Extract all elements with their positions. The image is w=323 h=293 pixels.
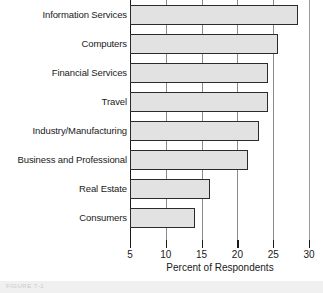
bar [130,34,278,54]
bar [130,5,298,25]
bar [130,208,195,228]
plot-area: Information ServicesComputersFinancial S… [0,0,323,240]
x-tick [202,240,203,248]
category-label: Industry/Manufacturing [0,126,127,136]
bar [130,179,210,199]
x-tick-label: 25 [258,249,288,260]
x-tick [273,240,274,248]
x-tick [130,240,131,248]
x-tick-label: 20 [222,249,252,260]
x-tick-label: 5 [115,249,145,260]
x-tick-label: 30 [294,249,323,260]
bar [130,150,248,170]
x-tick [166,240,167,248]
bar [130,63,268,83]
category-label: Computers [0,39,127,49]
category-label: Consumers [0,213,127,223]
x-axis-title: Percent of Respondents [130,262,310,273]
category-label: Travel [0,97,127,107]
x-tick [237,240,238,248]
x-tick [309,240,310,248]
figure-caption: FIGURE 7-1 [6,283,44,289]
category-label: Financial Services [0,68,127,78]
category-label: Business and Professional [0,155,127,165]
figure-container: Information ServicesComputersFinancial S… [0,0,323,293]
category-label: Information Services [0,10,127,20]
caption-strip [0,281,323,293]
category-label: Real Estate [0,184,127,194]
x-tick-label: 10 [151,249,181,260]
x-tick-label: 15 [187,249,217,260]
bar [130,92,268,112]
gridline-30 [309,0,310,243]
bar [130,121,259,141]
